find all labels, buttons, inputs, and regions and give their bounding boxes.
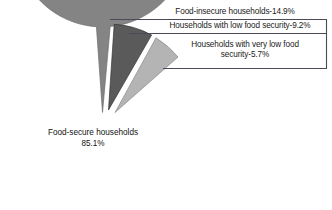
callout-very-low-line1: Households with very low food [170, 40, 320, 50]
callout-very-low-line2: security-5.7% [170, 50, 320, 60]
callout-low-food-security: Households with low food security-9.2% [152, 21, 328, 31]
pie-label-food-secure-name: Food-secure households [18, 128, 168, 139]
pie-label-food-secure: Food-secure households 85.1% [18, 128, 168, 149]
pie-chart-figure: Food-insecure households-14.9% Household… [0, 0, 332, 210]
pie-label-food-secure-value: 85.1% [18, 139, 168, 150]
pie-chart-canvas [0, 0, 332, 210]
callout-very-low-food-security: Households with very low food security-5… [170, 40, 320, 60]
callout-food-insecure-households: Food-insecure households-14.9% [142, 7, 328, 17]
